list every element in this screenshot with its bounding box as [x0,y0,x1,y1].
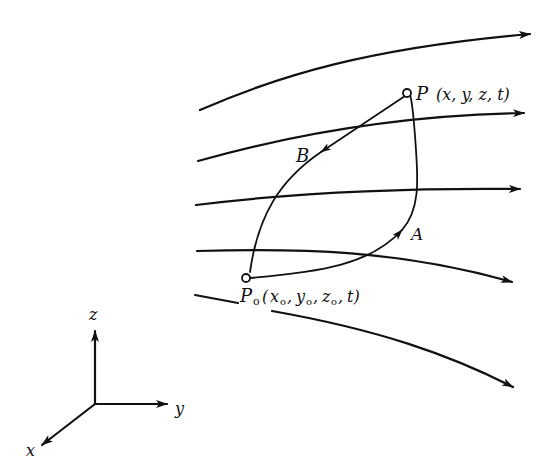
path-a-label: A [409,224,423,244]
point-p0-y-sub: o [306,296,312,307]
point-p0-z-sub: o [331,296,337,307]
comma-2: , [313,287,318,306]
path-b-upper [321,96,405,152]
point-p0-z: z [321,287,331,306]
point-p0-subscript: o [253,295,260,308]
point-p-coords: (x, y, z, t) [436,85,510,104]
path-b-label: B [295,145,309,166]
x-axis [42,404,95,445]
point-p-label: P [415,83,429,104]
streamline-5-start [195,295,238,303]
point-p0-label: P [239,285,253,306]
comma-3: , [338,287,343,306]
streamline-3 [196,189,520,205]
point-p0-x-sub: o [280,296,286,307]
path-a-upper [402,95,417,230]
path-b [250,152,321,272]
z-axis-label: z [88,305,98,324]
point-p0-marker [242,274,250,282]
point-p0-open-paren: ( [262,287,269,306]
point-p0-t: t) [347,287,360,306]
streamline-diagram: P (x, y, z, t) P o ( x o , y o , z o , t… [0,0,542,475]
path-a [250,230,402,278]
point-p0-y: y [295,287,306,306]
streamline-5 [272,311,513,387]
coordinate-axes: z y x [26,305,185,460]
point-p-marker [403,89,411,97]
y-axis-label: y [174,399,185,418]
x-axis-label: x [26,441,35,460]
point-p0-x: x [270,287,279,306]
streamline-2 [198,113,524,161]
comma-1: , [287,287,292,306]
